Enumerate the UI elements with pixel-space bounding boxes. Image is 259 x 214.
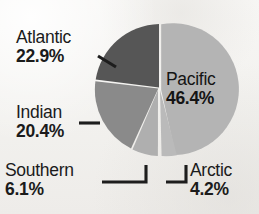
pie-label-pacific-value: 46.4%	[166, 89, 215, 107]
leader-line-southern	[102, 165, 146, 182]
pie-label-southern: Southern 6.1%	[5, 161, 74, 198]
pie-label-arctic-value: 4.2%	[190, 180, 232, 198]
pie-label-atlantic-name: Atlantic	[16, 28, 71, 46]
pie-label-southern-value: 6.1%	[5, 180, 74, 198]
pie-label-atlantic-value: 22.9%	[16, 47, 71, 65]
pie-label-pacific: Pacific 46.4%	[166, 70, 215, 107]
pie-label-indian-name: Indian	[16, 103, 64, 121]
pie-label-atlantic: Atlantic 22.9%	[16, 28, 71, 65]
pie-label-indian: Indian 20.4%	[16, 103, 64, 140]
pie-chart-figure: Atlantic 22.9% Indian 20.4% Southern 6.1…	[0, 0, 259, 214]
pie-label-pacific-name: Pacific	[166, 70, 215, 88]
pie-label-arctic-name: Arctic	[190, 161, 232, 179]
pie-label-indian-value: 20.4%	[16, 122, 64, 140]
pie-slice-atlantic[interactable]	[96, 24, 159, 88]
chart-plot-area: Atlantic 22.9% Indian 20.4% Southern 6.1…	[0, 0, 259, 214]
pie-label-arctic: Arctic 4.2%	[190, 161, 232, 198]
leader-line-arctic	[166, 165, 186, 182]
pie-label-southern-name: Southern	[5, 161, 74, 179]
